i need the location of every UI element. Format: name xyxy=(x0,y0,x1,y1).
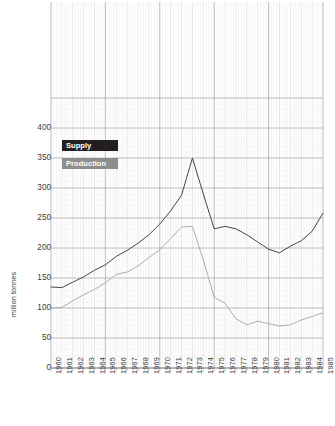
x-axis-ticks: 1960196119621963196419651966196719681969… xyxy=(0,0,335,426)
x-tick-label: 1971 xyxy=(174,357,183,374)
x-tick-label: 1967 xyxy=(130,357,139,374)
x-tick-label: 1976 xyxy=(228,357,237,374)
x-tick-label: 1963 xyxy=(87,357,96,374)
x-tick-label: 1974 xyxy=(206,357,215,374)
x-tick-label: 1960 xyxy=(54,357,63,374)
x-tick-label: 1961 xyxy=(65,357,74,374)
x-tick-label: 1972 xyxy=(185,357,194,374)
legend-item-supply: Supply xyxy=(62,140,118,151)
legend-item-production: Production xyxy=(62,158,118,169)
x-tick-label: 1975 xyxy=(217,357,226,374)
x-tick-label: 1980 xyxy=(272,357,281,374)
x-tick-label: 1979 xyxy=(261,357,270,374)
x-tick-label: 1968 xyxy=(141,357,150,374)
x-tick-label: 1970 xyxy=(163,357,172,374)
x-tick-label: 1977 xyxy=(239,357,248,374)
x-tick-label: 1969 xyxy=(152,357,161,374)
x-tick-label: 1982 xyxy=(293,357,302,374)
x-tick-label: 1985 xyxy=(326,357,335,374)
line-chart: 050100150200250300350400 196019611962196… xyxy=(0,0,335,426)
x-tick-label: 1978 xyxy=(250,357,259,374)
x-tick-label: 1981 xyxy=(282,357,291,374)
x-tick-label: 1964 xyxy=(98,357,107,374)
x-tick-label: 1965 xyxy=(108,357,117,374)
x-tick-label: 1983 xyxy=(304,357,313,374)
x-tick-label: 1962 xyxy=(76,357,85,374)
x-tick-label: 1984 xyxy=(315,357,324,374)
y-axis-title: million tonnes xyxy=(9,250,18,340)
x-tick-label: 1973 xyxy=(195,357,204,374)
x-tick-label: 1966 xyxy=(119,357,128,374)
